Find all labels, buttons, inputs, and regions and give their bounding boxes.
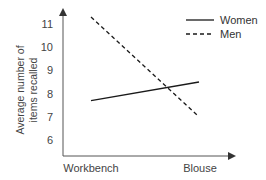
y-tick-labels: 67891011 xyxy=(41,18,53,146)
y-axis-label-line-2: items recalled xyxy=(27,57,39,122)
y-tick-label: 8 xyxy=(47,88,53,100)
y-axis-label-line-1: Average number of xyxy=(14,45,26,134)
x-category-label: Workbench xyxy=(63,162,118,174)
line-chart: Average number of items recalled 6789101… xyxy=(0,0,266,180)
y-tick-label: 6 xyxy=(47,134,53,146)
legend-label-women: Women xyxy=(220,14,258,26)
series-line-men xyxy=(91,17,199,117)
y-tick-label: 7 xyxy=(47,111,53,123)
x-category-label: Blouse xyxy=(183,162,217,174)
legend: Women Men xyxy=(186,14,258,40)
series-line-women xyxy=(91,82,199,101)
y-tick-label: 9 xyxy=(47,64,53,76)
y-tick-label: 10 xyxy=(41,41,53,53)
legend-label-men: Men xyxy=(220,28,241,40)
y-axis-label: Average number of items recalled xyxy=(14,45,39,134)
y-tick-label: 11 xyxy=(42,18,53,30)
